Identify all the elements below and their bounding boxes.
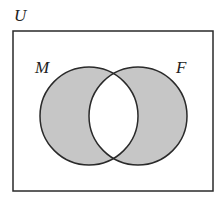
set-m-label: M: [34, 58, 50, 77]
venn-diagram: U M F: [0, 0, 216, 199]
set-f-label: F: [175, 58, 187, 77]
universe-label: U: [14, 6, 28, 25]
